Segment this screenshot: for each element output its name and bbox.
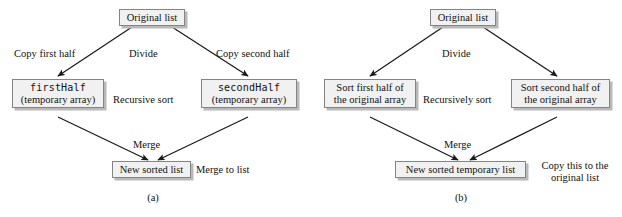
arrow-b-divide-left [370,27,443,76]
box-a-first-half: firstHalf (temporary array) [12,79,104,108]
box-a-second-half-name: secondHalf [218,82,280,94]
box-a-original-list: Original list [119,9,185,26]
label-b-recursively-sort: Recursively sort [423,94,492,106]
label-a-copy-second-half: Copy second half [216,48,290,60]
box-b-original-list-label: Original list [438,12,488,24]
box-a-first-half-name: firstHalf [30,82,86,94]
box-a-original-list-label: Original list [127,12,177,24]
box-b-sort-first-half: Sort first half of the original array [324,79,416,108]
box-a-first-half-note: (temporary array) [21,94,95,106]
label-a-recursive-sort: Recursive sort [113,94,173,106]
figure-canvas: Original list firstHalf (temporary array… [0,0,622,217]
box-a-new-sorted-list: New sorted list [112,161,191,178]
label-a-copy-first-half: Copy first half [14,48,75,60]
arrow-b-divide-right [483,27,557,76]
caption-a: (a) [139,192,167,203]
label-b-copy-to-original: Copy this to the original list [531,160,619,183]
box-b-original-list: Original list [430,9,496,26]
label-a-divide: Divide [129,48,158,60]
box-a-second-half-note: (temporary array) [212,94,286,106]
box-b-sort-first-half-line1: Sort first half of [336,82,403,94]
label-a-merge: Merge [133,139,160,151]
arrow-layer [0,0,622,217]
arrow-a-merge-right [158,117,248,160]
caption-b: (b) [447,192,475,203]
box-b-sort-second-half: Sort second half of the original array [511,79,610,108]
box-a-second-half: secondHalf (temporary array) [201,79,297,108]
label-b-divide: Divide [442,48,471,60]
box-b-sort-second-half-line1: Sort second half of [521,82,601,94]
box-b-new-sorted-temporary-list: New sorted temporary list [395,161,526,178]
box-b-sort-first-half-line2: the original array [334,94,406,106]
box-b-sort-second-half-line2: the original array [524,94,596,106]
box-a-new-sorted-list-label: New sorted list [120,164,184,176]
box-b-new-sorted-temporary-list-label: New sorted temporary list [406,164,515,176]
label-a-merge-to-list: Merge to list [196,164,249,176]
arrow-b-merge-right [470,117,557,160]
label-b-merge: Merge [444,139,471,151]
label-b-copy-to-original-line2: original list [551,172,599,183]
label-b-copy-to-original-line1: Copy this to the [542,160,609,171]
